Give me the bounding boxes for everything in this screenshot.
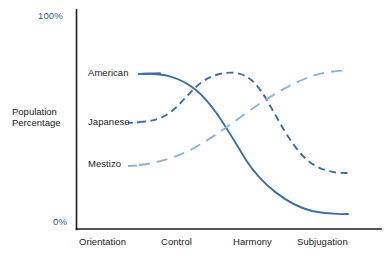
series-line-mestizo: [139, 71, 348, 166]
legend-stub-japanese: [128, 122, 140, 123]
series-line-japanese: [139, 73, 348, 173]
series-line-american: [139, 74, 348, 214]
chart-container: 100% 0% Population Percentage American J…: [0, 0, 389, 262]
series-label-american: American: [88, 68, 129, 79]
series-label-japanese: Japanese: [88, 117, 130, 128]
legend-stub-mestizo: [128, 165, 140, 166]
y-axis-min-label: 0%: [53, 217, 67, 228]
y-axis-title: Population Percentage: [12, 107, 61, 128]
series-label-mestizo: Mestizo: [88, 159, 121, 170]
x-axis-tick-label-subjugation: Subjugation: [297, 237, 348, 248]
y-axis-title-line-2: Percentage: [12, 118, 61, 129]
x-axis-tick-label-orientation: Orientation: [79, 237, 126, 248]
x-axis-tick-label-control: Control: [161, 237, 192, 248]
x-axis-tick-label-harmony: Harmony: [233, 237, 272, 248]
y-axis-max-label: 100%: [38, 11, 63, 22]
